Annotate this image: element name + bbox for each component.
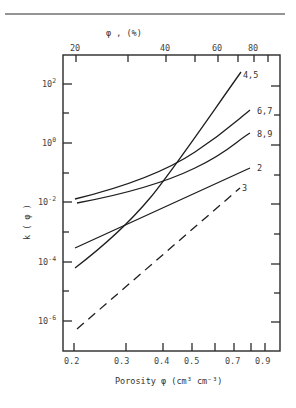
svg-text:0.3: 0.3 [114, 356, 129, 366]
bottom-axis-labels: 0.2 0.3 0.4 0.5 0.7 0.9 [64, 356, 270, 366]
svg-text:6,7: 6,7 [257, 106, 272, 116]
svg-text:102: 102 [42, 77, 56, 89]
svg-text:0.4: 0.4 [154, 356, 169, 366]
y-axis-title: k ( φ ) [22, 204, 32, 240]
right-axis-ticks [271, 86, 280, 322]
svg-text:4,5: 4,5 [243, 70, 258, 80]
plot-frame [63, 55, 280, 351]
top-axis-title: φ , (%) [106, 28, 142, 38]
svg-text:10-4: 10-4 [38, 255, 56, 267]
svg-text:0.7: 0.7 [225, 356, 240, 366]
curve-8-9 [77, 133, 250, 203]
svg-text:10-6: 10-6 [38, 314, 56, 326]
top-axis-ticks [76, 55, 268, 62]
svg-text:2: 2 [257, 163, 262, 173]
bottom-axis-ticks [74, 343, 265, 351]
curve-2 [75, 168, 250, 248]
curve-6-7 [75, 110, 250, 199]
svg-text:3: 3 [242, 183, 247, 193]
curve-labels: 4,5 6,7 8,9 2 3 [242, 70, 272, 193]
svg-text:0.5: 0.5 [184, 356, 199, 366]
bottom-axis-title: Porosity φ (cm³ cm⁻³) [115, 376, 222, 386]
svg-text:80: 80 [248, 43, 258, 53]
svg-text:10-2: 10-2 [38, 195, 56, 207]
svg-text:0.2: 0.2 [64, 356, 79, 366]
left-axis-labels: 102 100 10-2 10-4 10-6 [38, 77, 56, 326]
svg-text:100: 100 [42, 136, 56, 148]
svg-text:0.9: 0.9 [255, 356, 270, 366]
svg-text:8,9: 8,9 [257, 129, 272, 139]
left-axis-ticks [63, 84, 72, 321]
svg-text:20: 20 [70, 43, 80, 53]
svg-text:40: 40 [160, 43, 170, 53]
curve-4-5 [75, 72, 241, 268]
svg-text:60: 60 [212, 43, 222, 53]
top-axis-labels: 20 40 60 80 [70, 43, 258, 53]
chart-canvas: φ , (%) 20 40 60 80 0.2 0.3 0.4 0.5 0.7 … [0, 0, 296, 408]
